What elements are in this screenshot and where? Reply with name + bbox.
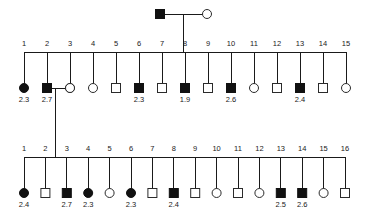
pedigree-canvas: 12.322.734562.3781.99102.61112132.41415 … (0, 0, 366, 223)
generation-2-index-label-9: 9 (193, 144, 197, 153)
generation-1-person-13-filled-square (296, 84, 305, 93)
generation-1-index-label-11: 11 (250, 39, 258, 48)
generation-2-person-8-filled-square (169, 189, 178, 198)
generation-1-index-label-5: 5 (114, 39, 118, 48)
generation-2-value-label-14: 2.6 (297, 200, 307, 209)
generation-1-index-label-15: 15 (342, 39, 350, 48)
generation-2-person-11-open-square (234, 189, 243, 198)
generation-2-index-label-7: 7 (150, 144, 154, 153)
generation-2-value-label-1: 2.4 (19, 200, 29, 209)
generation-1-group: 12.322.734562.3781.99102.61112132.41415 (19, 39, 351, 157)
generation-1-value-label-2: 2.7 (42, 95, 52, 104)
generation-2-index-label-8: 8 (172, 144, 176, 153)
generation-1-index-label-6: 6 (137, 39, 141, 48)
generation-2-group: 12.4232.742.3562.3782.49101112132.5142.6… (19, 144, 350, 209)
generation-2-index-label-4: 4 (86, 144, 90, 153)
generation-1-person-8-filled-square (181, 84, 190, 93)
generation-2-value-label-4: 2.3 (83, 200, 93, 209)
generation-2-person-9-open-square (191, 189, 200, 198)
generation-1-person-11-open-circle (250, 84, 259, 93)
generation-2-index-label-16: 16 (341, 144, 349, 153)
generation-2-index-label-14: 14 (298, 144, 306, 153)
pedigree-chart: 12.322.734562.3781.99102.61112132.41415 … (0, 0, 366, 223)
generation-1-value-label-10: 2.6 (226, 95, 236, 104)
generation-1-value-label-1: 2.3 (19, 95, 29, 104)
generation-2-person-16-open-square (341, 189, 350, 198)
generation-2-person-3-filled-square (62, 189, 71, 198)
generation-2-value-label-13: 2.5 (276, 200, 286, 209)
generation-1-value-label-13: 2.4 (295, 95, 305, 104)
generation-2-person-4-filled-circle (84, 189, 93, 198)
generation-1-person-9-open-square (204, 84, 213, 93)
generation-1-index-label-12: 12 (273, 39, 281, 48)
generation-1-index-label-1: 1 (22, 39, 26, 48)
generation-1-value-label-6: 2.3 (134, 95, 144, 104)
generation-1-person-14-open-square (319, 84, 328, 93)
generation-1-index-label-8: 8 (183, 39, 187, 48)
generation-2-index-label-12: 12 (255, 144, 263, 153)
generation-2-person-15-open-circle (319, 189, 328, 198)
generation-1-spouse-open-circle (66, 84, 75, 93)
generation-1-index-label-9: 9 (206, 39, 210, 48)
generation-1-value-label-8: 1.9 (180, 95, 190, 104)
generation-2-index-label-10: 10 (212, 144, 220, 153)
generation-1-person-15-open-circle (342, 84, 351, 93)
generation-1-person-4-open-circle (89, 84, 98, 93)
generation-1-person-5-open-square (112, 84, 121, 93)
generation-2-value-label-3: 2.7 (62, 200, 72, 209)
generation-2-index-label-3: 3 (65, 144, 69, 153)
generation-2-person-2-open-square (41, 189, 50, 198)
generation-1-index-label-13: 13 (296, 39, 304, 48)
generation-1-index-label-7: 7 (160, 39, 164, 48)
generation-2-person-1-filled-circle (20, 189, 29, 198)
generation-2-person-14-filled-square (298, 189, 307, 198)
generation-2-value-label-8: 2.4 (169, 200, 179, 209)
founder-mother-open-circle (203, 10, 212, 19)
generation-1-person-6-filled-square (135, 84, 144, 93)
generation-2-index-label-1: 1 (22, 144, 26, 153)
generation-1-person-10-filled-square (227, 84, 236, 93)
generation-2-person-13-filled-square (276, 189, 285, 198)
generation-2-index-label-5: 5 (108, 144, 112, 153)
generation-2-index-label-6: 6 (129, 144, 133, 153)
founder-father-filled-square (156, 10, 165, 19)
generation-2-index-label-11: 11 (234, 144, 242, 153)
generation-1-person-7-open-square (158, 84, 167, 93)
generation-1-person-2-filled-square (43, 84, 52, 93)
generation-2-person-10-open-circle (212, 189, 221, 198)
generation-2-person-7-open-square (148, 189, 157, 198)
generation-1-person-1-filled-circle (20, 84, 29, 93)
generation-2-person-6-filled-circle (127, 189, 136, 198)
generation-1-index-label-4: 4 (91, 39, 95, 48)
generation-2-index-label-2: 2 (43, 144, 47, 153)
generation-1-index-label-10: 10 (227, 39, 235, 48)
generation-1-index-label-14: 14 (319, 39, 327, 48)
generation-2-index-label-13: 13 (277, 144, 285, 153)
generation-2-value-label-6: 2.3 (126, 200, 136, 209)
generation-1-person-12-open-square (273, 84, 282, 93)
generation-2-person-5-open-circle (105, 189, 114, 198)
generation-2-person-12-open-circle (255, 189, 264, 198)
generation-1-index-label-2: 2 (45, 39, 49, 48)
generation-2-index-label-15: 15 (319, 144, 327, 153)
generation-1-index-label-3: 3 (68, 39, 72, 48)
